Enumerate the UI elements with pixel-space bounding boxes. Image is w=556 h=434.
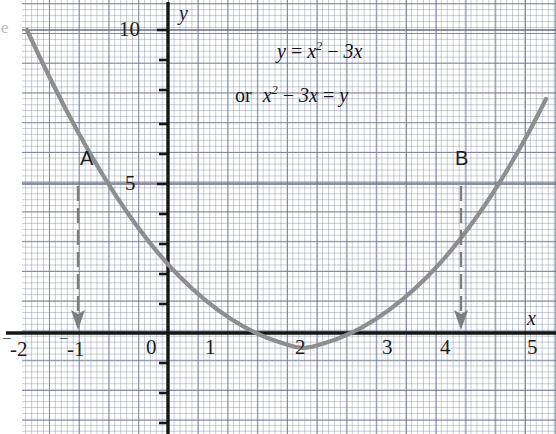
equation-secondary-rhs: y <box>339 84 348 106</box>
x-tick-label-2: 2 <box>295 337 306 358</box>
y-axis-label: y <box>179 3 188 23</box>
x-tick-label-neg2: ¯-2 <box>3 337 28 360</box>
y-tick-label-10: 10 <box>119 19 140 40</box>
equation-primary-equals: = <box>291 40 302 62</box>
arrowhead-a <box>71 310 85 330</box>
graph-figure: e <box>0 0 556 434</box>
x-tick-label-0: 0 <box>146 337 157 358</box>
point-label-b: B <box>455 148 468 168</box>
drop-line-a <box>71 186 85 330</box>
equation-secondary: or x2 − 3x = y <box>235 84 348 105</box>
equation-secondary-term: 3x <box>299 84 318 106</box>
equation-primary: y = x2 − 3x <box>277 40 362 61</box>
equation-secondary-base: x <box>263 84 272 106</box>
negative-sign: ¯ <box>60 336 67 352</box>
plot-area <box>0 0 556 434</box>
x-tick-label-5: 5 <box>527 337 538 358</box>
equation-primary-base: x <box>307 40 316 62</box>
x-axis-label: x <box>527 308 536 328</box>
point-label-a: A <box>80 148 93 168</box>
equation-primary-term: 3x <box>344 40 363 62</box>
arrowhead-b <box>454 310 468 330</box>
x-tick-label-3: 3 <box>382 337 393 358</box>
equation-primary-lhs: y <box>277 40 286 62</box>
equation-secondary-equals: = <box>323 84 334 106</box>
y-tick-label-5: 5 <box>125 173 136 194</box>
parabola-curve <box>27 30 546 348</box>
x-tick-label-4: 4 <box>440 337 451 358</box>
x-tick-label-1: 1 <box>205 337 216 358</box>
equation-secondary-exponent: 2 <box>272 83 278 97</box>
negative-sign: ¯ <box>3 336 10 352</box>
equation-secondary-prefix: or <box>235 84 252 106</box>
equation-primary-minus: − <box>327 40 338 62</box>
equation-secondary-minus: − <box>283 84 294 106</box>
x-tick-label-neg1: ¯-1 <box>60 337 85 360</box>
equation-primary-exponent: 2 <box>316 39 322 53</box>
drop-line-b <box>454 186 468 330</box>
